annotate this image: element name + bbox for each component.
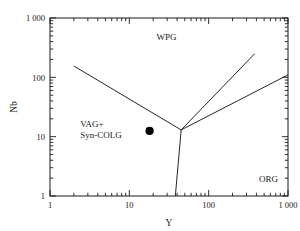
field-vag-line1: VAG+: [80, 119, 103, 129]
field-vag-line2: Syn-COLG: [80, 130, 122, 140]
x-tick-label-3: 1 000: [278, 200, 297, 210]
x-tick-label-1: 10: [125, 200, 134, 210]
y-tick-label-3: 1 000: [26, 13, 45, 23]
x-tick-label-0: 1: [48, 200, 52, 210]
y-tick-label-1: 10: [37, 132, 46, 142]
data-points: [145, 127, 153, 135]
x-tick-label-2: 100: [202, 200, 215, 210]
field-wpg: WPG: [156, 32, 177, 42]
x-axis-title: Y: [166, 218, 173, 228]
data-point-marker: [145, 127, 153, 135]
nb-y-discrimination-diagram: 1101001 000 1101001 000 WPGVAG+Syn-COLGO…: [0, 0, 300, 231]
y-tick-label-0: 1: [41, 191, 45, 201]
y-axis-title: Nb: [9, 101, 19, 113]
chart-svg: 1101001 000 1101001 000 WPGVAG+Syn-COLGO…: [0, 0, 300, 231]
y-tick-label-2: 100: [32, 73, 45, 83]
field-org: ORG: [259, 174, 279, 184]
